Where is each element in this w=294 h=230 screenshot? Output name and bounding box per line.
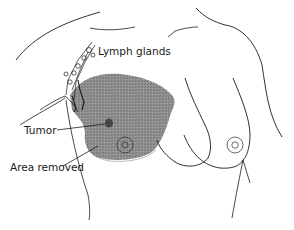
right-torso-line-2 — [243, 160, 250, 183]
right-nipple — [232, 142, 238, 148]
right-breast-inner — [233, 78, 250, 160]
illustration — [0, 0, 294, 230]
tumor-mark — [105, 119, 113, 128]
label-tumor: Tumor — [24, 124, 56, 136]
collarbone-line — [90, 27, 135, 30]
breast-diagram: Lymph glands Tumor Area removed — [0, 0, 294, 230]
right-breast-lower — [184, 135, 243, 168]
label-lymph-glands: Lymph glands — [98, 45, 171, 57]
area-removed-shading — [70, 74, 175, 160]
right-shoulder-line — [196, 8, 282, 137]
collarbone-line-right — [168, 27, 198, 37]
left-arm-line — [20, 98, 65, 125]
label-area-removed: Area removed — [10, 161, 84, 173]
right-areola — [227, 137, 243, 153]
right-torso-line — [232, 160, 243, 218]
